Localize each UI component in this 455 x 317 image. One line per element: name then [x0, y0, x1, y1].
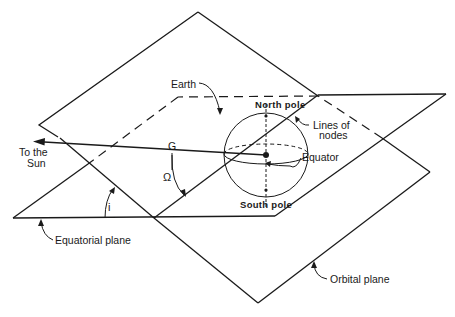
label-north-pole: North pole [255, 99, 306, 110]
label-orbital-plane: Orbital plane [330, 273, 390, 285]
equatorial-plane-arrow-icon [38, 219, 44, 226]
label-lines-of-nodes-2: nodes [319, 129, 348, 141]
earth-leader-arrow-icon [217, 108, 223, 115]
line-of-nodes [154, 95, 318, 218]
orbital-plane-left-edge-upper [60, 138, 154, 218]
orbital-plane-left-edge-lower [154, 218, 258, 303]
equatorial-plane-left-edge [13, 164, 88, 218]
lines-of-nodes-arrow-icon [295, 116, 300, 123]
north-pole-dot [264, 114, 267, 117]
label-omega: Ω [163, 171, 171, 183]
label-south-pole: South pole [240, 199, 292, 210]
orbital-plane-right-edge-lower [382, 138, 430, 172]
inclination-arrow-icon [109, 187, 115, 194]
omega-arc [172, 155, 184, 195]
equatorial-plane-right-edge [275, 94, 446, 216]
equatorial-plane-back-edge-hidden [178, 96, 318, 97]
diagram-canvas: Earth North pole Lines of nodes Equator … [0, 0, 455, 317]
label-g: G [168, 140, 176, 152]
equatorial-plane [13, 94, 446, 218]
south-pole-dot [264, 188, 267, 191]
equatorial-plane-front-edge [13, 216, 275, 218]
label-equator: Equator [302, 151, 339, 163]
label-to-the-sun-2: Sun [27, 157, 46, 169]
equatorial-plane-left-edge-hidden [88, 97, 178, 164]
equatorial-plane-back-edge [318, 94, 446, 95]
sun-arrow-icon [33, 138, 45, 146]
orbital-plane-top-left-edge [39, 12, 198, 137]
equator-leader [268, 158, 301, 167]
label-inclination: i [108, 201, 110, 213]
label-equatorial-plane: Equatorial plane [55, 234, 131, 246]
label-earth: Earth [171, 78, 196, 90]
earth-leader [199, 83, 220, 112]
orbital-plane-top-right-edge [198, 12, 318, 96]
orbital-geometry-diagram: Earth North pole Lines of nodes Equator … [0, 0, 455, 317]
